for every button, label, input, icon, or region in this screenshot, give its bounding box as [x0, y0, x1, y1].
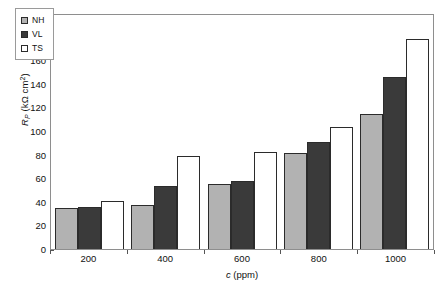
legend-label: VL — [32, 30, 42, 39]
bar-nh-200 — [55, 208, 78, 249]
bar-ts-600 — [254, 152, 277, 249]
legend-label: TS — [32, 44, 43, 53]
bar-ts-400 — [177, 156, 200, 249]
legend-swatch-icon — [21, 17, 28, 24]
x-axis-tick-label: 800 — [280, 253, 357, 264]
x-axis-tick-labels: 2004006008001000 — [50, 253, 434, 264]
legend-swatch-icon — [21, 45, 28, 52]
plot-area — [50, 14, 434, 250]
x-axis-title: c (ppm) — [50, 269, 434, 280]
y-axis-tick-label: 140 — [16, 80, 46, 90]
y-axis-tick-label: 0 — [16, 245, 46, 255]
bar-group-1000 — [357, 15, 433, 249]
x-axis-tick-label: 400 — [127, 253, 204, 264]
bar-ts-1000 — [406, 39, 429, 249]
x-axis-tick-mark — [434, 250, 435, 254]
bar-nh-1000 — [360, 114, 383, 249]
bar-group-800 — [280, 15, 356, 249]
bar-vl-1000 — [383, 77, 406, 249]
legend-swatch-icon — [21, 31, 28, 38]
bar-vl-600 — [231, 181, 254, 249]
legend-label: NH — [32, 16, 44, 25]
y-axis-tick-label: 100 — [16, 127, 46, 137]
x-axis-tick-label: 600 — [204, 253, 281, 264]
bar-ts-200 — [101, 201, 124, 249]
x-axis-tick-label: 200 — [50, 253, 127, 264]
bar-group-200 — [51, 15, 127, 249]
bar-ts-800 — [330, 127, 353, 249]
y-axis-tick-label: 60 — [16, 174, 46, 184]
bar-nh-600 — [208, 184, 231, 249]
x-axis-symbol: c — [226, 269, 231, 280]
y-axis-tick-label: 80 — [16, 151, 46, 161]
bar-nh-800 — [284, 153, 307, 249]
bar-nh-400 — [131, 205, 154, 249]
chart-legend: NHVLTS — [15, 8, 54, 60]
legend-item-nh[interactable]: NH — [21, 13, 44, 27]
x-axis-tick-label: 1000 — [357, 253, 434, 264]
y-axis-tick-label: 40 — [16, 198, 46, 208]
bar-group-600 — [204, 15, 280, 249]
bars-layer — [51, 15, 433, 249]
bar-vl-800 — [307, 142, 330, 249]
bar-chart: RP (kΩ cm2) 200180160140120100806040200 … — [0, 0, 443, 290]
bar-vl-200 — [78, 207, 101, 249]
y-axis-tick-label: 120 — [16, 104, 46, 114]
legend-item-vl[interactable]: VL — [21, 27, 44, 41]
x-axis-unit: (ppm) — [233, 269, 258, 280]
legend-item-ts[interactable]: TS — [21, 41, 44, 55]
bar-vl-400 — [154, 186, 177, 249]
bar-group-400 — [127, 15, 203, 249]
y-axis-tick-label: 20 — [16, 222, 46, 232]
